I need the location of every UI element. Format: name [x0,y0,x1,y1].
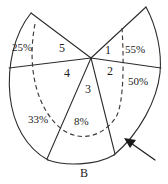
percent-label-55: 55% [125,44,145,55]
region-label-3: 3 [85,83,91,95]
region-label-5: 5 [59,42,65,54]
figure-drawing [0,0,168,184]
divider-left-horizontal [9,58,91,68]
region-label-2: 2 [107,65,113,77]
geometry-figure: 25% 55% 50% 33% 8% 1 2 3 4 5 B [0,0,168,184]
figure-caption: B [80,167,88,179]
percent-label-50: 50% [128,76,148,87]
divider-right-horizontal [91,58,161,68]
percent-label-8: 8% [74,116,89,127]
region-label-1: 1 [105,44,111,56]
left-outer-arc [9,13,48,160]
region-label-4: 4 [64,67,70,79]
percent-label-33: 33% [28,114,48,125]
percent-label-25: 25% [12,42,32,53]
bottom-outer-arc [48,155,114,164]
